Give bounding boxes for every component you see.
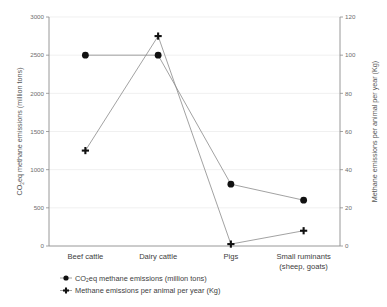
y-axis-tick-label: 2500 xyxy=(30,51,44,58)
chart-container: 050010001500200025003000020406080100120B… xyxy=(0,0,387,307)
x-axis-label-3-line2: (sheep, goats) xyxy=(279,262,328,271)
y2-axis-tick-label: 60 xyxy=(345,128,352,135)
series-line-0 xyxy=(85,55,303,200)
legend-label-1[interactable]: Methane emissions per animal per year (K… xyxy=(75,286,220,295)
y-axis-tick-label: 2000 xyxy=(30,90,44,97)
data-point-circle[interactable] xyxy=(82,52,89,59)
series-line-1 xyxy=(85,36,303,244)
y-axis-tick-label: 500 xyxy=(34,204,45,211)
y-axis-tick-label: 1000 xyxy=(30,166,44,173)
y2-axis-tick-label: 20 xyxy=(345,204,352,211)
y-axis-tick-label: 3000 xyxy=(30,13,44,20)
y2-axis-tick-label: 120 xyxy=(345,13,356,20)
y-axis-tick-label: 1500 xyxy=(30,128,44,135)
y2-axis-tick-label: 80 xyxy=(345,90,352,97)
y2-axis-tick-label: 0 xyxy=(345,242,349,249)
y2-axis-title: Methane emissions per animal per year (K… xyxy=(370,61,379,202)
y2-axis-tick-label: 40 xyxy=(345,166,352,173)
y-axis-title: CO2eq methane emissions (million tons) xyxy=(15,67,25,195)
x-axis-label-2: Pigs xyxy=(223,252,238,261)
y-axis-tick-label: 0 xyxy=(41,242,45,249)
legend-label-0[interactable]: CO2eq methane emissions (million tons) xyxy=(75,274,207,284)
y2-axis-tick-label: 100 xyxy=(345,51,356,58)
data-point-circle[interactable] xyxy=(227,181,234,188)
x-axis-label-0: Beef cattle xyxy=(67,252,103,261)
data-point-circle[interactable] xyxy=(155,52,162,59)
x-axis-label-3: Small ruminants xyxy=(276,252,331,261)
legend-marker-circle xyxy=(63,275,68,280)
x-axis-label-1: Dairy cattle xyxy=(139,252,177,261)
data-point-circle[interactable] xyxy=(300,197,307,204)
line-chart: 050010001500200025003000020406080100120B… xyxy=(0,0,387,307)
